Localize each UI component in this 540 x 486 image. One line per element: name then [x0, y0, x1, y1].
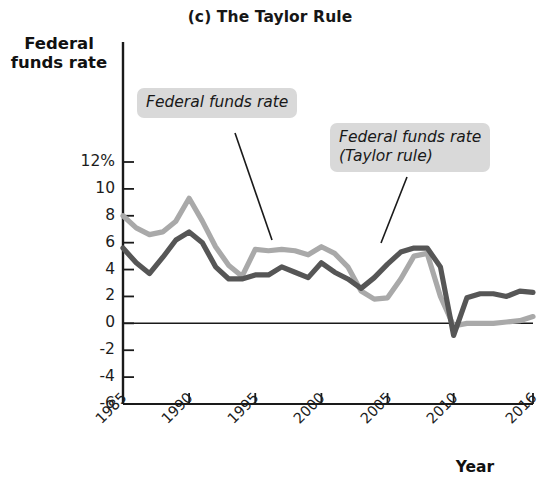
- y-tick-label: 10: [57, 181, 115, 197]
- annotation-taylor-rule: Federal funds rate (Taylor rule): [330, 123, 490, 172]
- series-group: [123, 198, 533, 335]
- leader-line-ffr: [235, 133, 272, 240]
- series-line: [123, 198, 533, 326]
- chart-figure: (c) The Taylor Rule Federalfunds rate Ye…: [0, 0, 540, 486]
- leader-line-taylor: [381, 177, 407, 243]
- y-tick-label: 0: [57, 315, 115, 331]
- y-tick-label: -2: [57, 342, 115, 358]
- annotation-federal-funds-rate: Federal funds rate: [137, 88, 297, 118]
- y-tick-label: 2: [57, 288, 115, 304]
- y-tick-label: 8: [57, 208, 115, 224]
- y-tick-label: 12%: [57, 154, 115, 170]
- y-tick-label: 4: [57, 262, 115, 278]
- y-tick-label: 6: [57, 235, 115, 251]
- y-tick-label: -4: [57, 369, 115, 385]
